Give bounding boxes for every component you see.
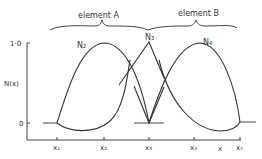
y-axis-label: N(x) <box>4 80 19 88</box>
x-tick-1: x₁ <box>53 144 60 152</box>
x-tick-2: x₂ <box>100 144 107 152</box>
curve-n1 <box>57 60 130 131</box>
x-axis-label: x <box>218 145 222 153</box>
curve-label-n4: N₄ <box>203 38 212 47</box>
y-tick-0: 0 <box>19 120 23 128</box>
x-tick-4: x₄ <box>190 144 197 152</box>
element-a-label: element A <box>78 11 120 20</box>
curve-label-n2: N₂ <box>77 41 86 50</box>
element-b-label: element B <box>178 9 219 18</box>
curve-n4 <box>149 43 240 123</box>
x-tick-3: x₃ <box>145 144 152 152</box>
element-b-brace <box>148 20 237 30</box>
curve-n5 <box>159 60 240 131</box>
x-tick-5: x₅ <box>236 144 243 152</box>
shape-function-diagram: element A element B 1·0 0 N(x) x₁ x₂ x₃ … <box>0 0 262 159</box>
element-a-brace <box>50 20 148 30</box>
curve-label-n3: N₃ <box>145 33 154 42</box>
y-tick-1: 1·0 <box>10 40 21 48</box>
curve-n2 <box>57 43 149 123</box>
